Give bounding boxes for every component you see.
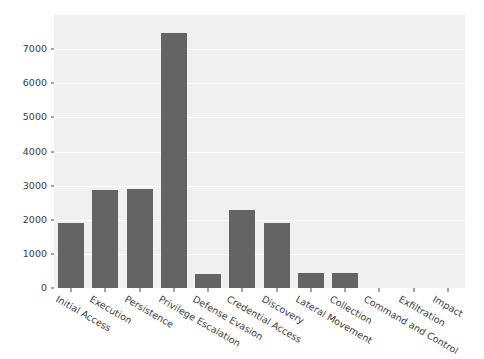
y-tick-label: 6000 bbox=[23, 79, 54, 89]
gridline bbox=[54, 288, 465, 289]
y-tick-label: 1000 bbox=[23, 249, 54, 259]
y-tick-label: 4000 bbox=[23, 147, 54, 157]
bar bbox=[58, 223, 84, 288]
x-tick-mark bbox=[413, 288, 414, 292]
bar bbox=[195, 274, 221, 288]
y-tick-label: 2000 bbox=[23, 215, 54, 225]
bar bbox=[161, 33, 187, 288]
bar bbox=[127, 189, 153, 288]
x-tick-mark bbox=[345, 288, 346, 292]
bar-chart-figure: 01000200030004000500060007000 Initial Ac… bbox=[0, 0, 484, 359]
y-tick-label: 5000 bbox=[23, 113, 54, 123]
x-tick-mark bbox=[208, 288, 209, 292]
bar bbox=[332, 273, 358, 288]
x-tick-mark bbox=[242, 288, 243, 292]
x-tick-mark bbox=[379, 288, 380, 292]
y-tick-label: 7000 bbox=[23, 44, 54, 54]
bar bbox=[229, 210, 255, 288]
y-tick-label: 3000 bbox=[23, 181, 54, 191]
x-tick-mark bbox=[71, 288, 72, 292]
bar bbox=[264, 223, 290, 288]
x-tick-mark bbox=[276, 288, 277, 292]
x-tick-mark bbox=[447, 288, 448, 292]
plot-area: 01000200030004000500060007000 Initial Ac… bbox=[54, 15, 465, 288]
x-tick-mark bbox=[139, 288, 140, 292]
x-tick-mark bbox=[310, 288, 311, 292]
bar-series bbox=[54, 15, 465, 288]
x-tick-mark bbox=[173, 288, 174, 292]
y-tick-label: 0 bbox=[41, 283, 54, 293]
bar bbox=[92, 190, 118, 288]
x-tick-mark bbox=[105, 288, 106, 292]
bar bbox=[298, 273, 324, 288]
